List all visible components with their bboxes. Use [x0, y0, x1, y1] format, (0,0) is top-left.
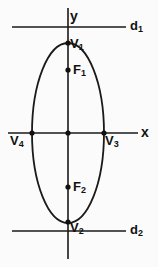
focus-1-point [65, 67, 70, 72]
focus-1-label: F1 [73, 63, 86, 76]
directrix-d2-label: d2 [130, 223, 143, 236]
x-axis-label: x [141, 125, 149, 139]
vertex-4-label: V4 [10, 134, 24, 147]
directrix-d1-label: d1 [130, 19, 143, 32]
focus-2-label: F2 [73, 180, 86, 193]
vertex-2-label: V2 [70, 221, 84, 234]
focus-2-point [65, 184, 70, 189]
ellipse-diagram: y x d1 d2 V1 V2 V3 V4 F1 F2 [0, 0, 158, 267]
vertex-1-label: V1 [70, 37, 84, 50]
y-axis-label: y [70, 9, 78, 23]
origin-point [65, 130, 70, 135]
vertex-4-point [29, 130, 34, 135]
vertex-3-label: V3 [105, 134, 119, 147]
